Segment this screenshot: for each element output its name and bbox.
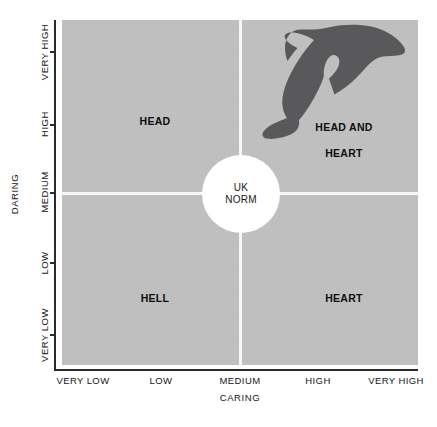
quadrant-label-hell: HELL (110, 292, 200, 305)
quadrant-label-heart: HEART (289, 292, 399, 305)
quadrant-label-head-and-heart: HEAD AND HEART (289, 108, 399, 174)
x-tick-label-high: HIGH (305, 375, 330, 386)
y-axis-tick-medium (50, 192, 55, 194)
y-axis-tick-high (50, 124, 55, 126)
y-tick-label-high: HIGH (39, 111, 50, 137)
uk-norm-line1: UK (234, 182, 248, 194)
y-tick-label-very-high: VERY HIGH (39, 24, 50, 80)
uk-norm-line2: NORM (225, 194, 256, 206)
uk-norm-marker: UK NORM (202, 155, 280, 233)
y-tick-label-low: LOW (39, 251, 50, 274)
y-tick-label-medium: MEDIUM (39, 171, 50, 213)
y-tick-label-very-low: VERY LOW (39, 308, 50, 362)
quadrant-label-head: HEAD (110, 115, 200, 128)
x-axis-title: CARING (62, 392, 418, 403)
quadrant-label-head-and-heart-line1: HEAD AND (289, 121, 399, 134)
quadrant-label-head-and-heart-line2: HEART (289, 147, 399, 160)
x-tick-label-low: LOW (150, 375, 173, 386)
x-tick-label-medium: MEDIUM (220, 375, 261, 386)
x-tick-label-very-low: VERY LOW (56, 375, 109, 386)
y-axis-line (54, 20, 56, 370)
x-axis-line (54, 369, 418, 371)
y-axis-tick-low (50, 262, 55, 264)
quadrant-chart: HEAD HEAD AND HEART HELL HEART UK NORM V… (0, 0, 437, 427)
plot-area: HEAD HEAD AND HEART HELL HEART UK NORM (62, 20, 418, 365)
x-tick-label-very-high: VERY HIGH (368, 375, 424, 386)
y-axis-tick-very-high (50, 51, 55, 53)
y-axis-title: DARING (9, 174, 20, 215)
y-axis-tick-very-low (50, 334, 55, 336)
